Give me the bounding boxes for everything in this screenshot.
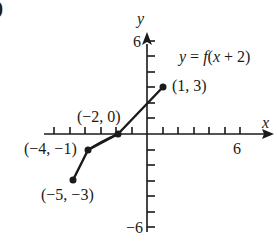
corner-label: ) [0,0,3,19]
x-axis-label: x [261,114,269,131]
point-label: (−2, 0) [77,108,121,126]
point-label: (1, 3) [172,77,207,95]
y-axis-label: y [135,10,145,28]
data-point [85,147,92,154]
y-tick-label-6: 6 [133,33,141,50]
x-tick-label-6: 6 [233,140,241,157]
data-point [160,84,167,91]
y-axis-arrow-icon [142,32,152,45]
y-axis [147,41,155,232]
data-point [115,131,122,138]
y-tick-label-neg6: −6 [126,219,143,236]
data-point [70,177,77,184]
x-axis [44,127,266,134]
function-graph: ) x y 6 6 −6 [0,0,277,250]
function-label: y = f(x + 2) [177,48,250,66]
point-label: (−4, −1) [24,140,77,158]
point-label: (−5, −3) [41,186,94,204]
curve-segment [88,134,118,150]
